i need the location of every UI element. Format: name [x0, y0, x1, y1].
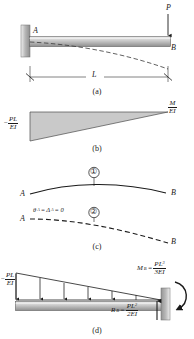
- label-m-over-ei-panel-b: M EI: [168, 100, 177, 116]
- bc-theta-symbol: θ: [33, 207, 36, 214]
- beam-member-a: [30, 37, 171, 47]
- moment-area-triangle: [30, 112, 168, 141]
- boundary-condition-label: θA = ΔA = 0: [33, 207, 64, 214]
- numerator-m-b: M: [168, 100, 177, 107]
- figure-canvas: [0, 0, 194, 339]
- denominator-ei-b: EI: [8, 123, 18, 131]
- mb-numerator: PL3: [153, 261, 165, 268]
- numerator-pl-b: PL: [8, 116, 18, 123]
- mb-subscript: B: [144, 267, 147, 272]
- denominator-ei-b2: EI: [168, 107, 177, 115]
- caption-panel-d: (d): [85, 327, 109, 335]
- bc-theta-sub: A: [37, 208, 40, 212]
- elastic-curve-1: [30, 184, 166, 194]
- beam-mechanics-figure: A B P L (a) − PL EI M EI (b) A B ① A B ②…: [0, 0, 194, 339]
- beam-member-d: [16, 302, 162, 311]
- rb-numerator-base: PL: [127, 302, 135, 310]
- bc-delta-symbol: Δ: [46, 207, 50, 214]
- moment-arrow-mb: [175, 282, 186, 309]
- bc-delta-sub: A: [51, 208, 54, 212]
- denominator-ei-d: EI: [5, 279, 15, 287]
- mb-denominator: 3EI: [153, 268, 165, 276]
- distributed-load-triangle: [16, 273, 161, 300]
- rb-symbol: R: [111, 307, 115, 314]
- fixed-support-wall-a: [21, 25, 30, 57]
- bc-equals-1: =: [41, 207, 45, 214]
- rb-equals: =: [120, 307, 125, 314]
- dimension-line-l: [26, 66, 172, 82]
- caption-panel-b: (b): [85, 145, 109, 153]
- label-shear-reaction-rb: RB = PL2 2EI: [111, 303, 138, 319]
- label-point-b-curve2: B: [171, 238, 176, 246]
- elastic-curve-2: [30, 219, 168, 243]
- label-point-b-panel-a: B: [171, 44, 176, 52]
- callout-1-number: ①: [90, 168, 97, 176]
- panel-a-graphics: [21, 14, 172, 82]
- bc-equals-zero: = 0: [55, 207, 64, 214]
- mb-equals: =: [148, 265, 153, 272]
- label-point-a-curve2: A: [20, 215, 25, 223]
- label-point-a-curve1: A: [20, 190, 25, 198]
- rb-numerator: PL2: [126, 303, 138, 310]
- label-minus-pl-over-ei-panel-b: − PL EI: [4, 116, 18, 132]
- numerator-pl-d: PL: [5, 272, 15, 279]
- label-load-p: P: [166, 4, 171, 12]
- load-arrow-group: [16, 274, 136, 300]
- panel-d-graphics: [16, 273, 187, 320]
- caption-panel-a: (a): [85, 88, 109, 96]
- label-moment-reaction-mb: MB = PL3 3EI: [137, 261, 166, 277]
- mb-numerator-exponent: 3: [163, 260, 165, 265]
- rb-numerator-exponent: 2: [135, 302, 137, 307]
- label-point-b-curve1: B: [171, 189, 176, 197]
- panel-b-graphics: [30, 112, 168, 141]
- mb-symbol: M: [137, 265, 143, 272]
- panel-c-graphics: [30, 167, 168, 243]
- mb-numerator-base: PL: [154, 260, 162, 268]
- label-span-l: L: [92, 71, 96, 79]
- label-point-a-panel-a: A: [33, 27, 38, 35]
- callout-2-number: ②: [90, 208, 97, 216]
- rb-subscript: B: [116, 309, 119, 314]
- label-minus-pl-over-ei-panel-d: − PL EI: [1, 272, 15, 288]
- fixed-support-wall-d: [161, 288, 170, 320]
- rb-denominator: 2EI: [126, 310, 138, 318]
- caption-panel-c: (c): [85, 243, 109, 251]
